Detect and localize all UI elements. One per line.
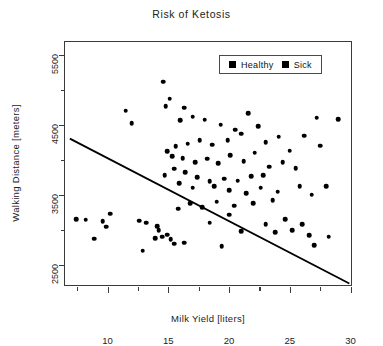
- data-point: [294, 166, 299, 171]
- y-axis-title-label: Walking Distance [meters]: [10, 104, 21, 222]
- data-point: [164, 104, 169, 109]
- data-point: [210, 143, 215, 148]
- data-point: [271, 198, 276, 203]
- data-point: [167, 96, 172, 101]
- data-point: [161, 80, 166, 85]
- data-point: [228, 153, 233, 158]
- y-axis-title: Walking Distance [meters]: [8, 0, 22, 336]
- x-axis-tick-label: 25: [285, 335, 296, 346]
- data-point: [173, 144, 178, 149]
- data-point: [219, 244, 224, 249]
- y-axis-minor-tick: [61, 90, 65, 91]
- legend-item-sick: Sick: [282, 60, 312, 70]
- data-point: [288, 148, 293, 153]
- data-point: [218, 122, 223, 127]
- data-point: [244, 191, 249, 196]
- data-point: [74, 217, 79, 222]
- data-point: [207, 220, 212, 225]
- chart-title: Risk of Ketosis: [0, 8, 383, 20]
- data-point: [156, 228, 161, 233]
- data-point: [137, 218, 142, 223]
- data-point: [162, 173, 167, 178]
- x-axis-minor-tick: [77, 287, 78, 291]
- data-point: [256, 124, 261, 129]
- x-axis-tick: [351, 287, 352, 293]
- data-point: [227, 188, 232, 193]
- data-point: [172, 166, 177, 171]
- x-axis-minor-tick: [138, 287, 139, 291]
- legend-square-icon-sick: [282, 61, 289, 68]
- data-point: [176, 206, 181, 211]
- x-axis-tick-label: 30: [345, 335, 356, 346]
- legend-label-healthy: Healthy: [241, 60, 274, 70]
- data-point: [267, 164, 272, 169]
- data-point: [182, 241, 187, 246]
- plot-area: [65, 42, 351, 285]
- data-point: [92, 236, 97, 241]
- data-point: [202, 117, 207, 122]
- data-point: [263, 140, 268, 145]
- data-point: [232, 204, 237, 209]
- data-point: [183, 170, 188, 175]
- data-point: [130, 121, 135, 126]
- x-axis-tick: [108, 287, 109, 293]
- plot-frame: 25003500450055001015202530: [64, 41, 352, 286]
- x-axis-tick-label: 20: [224, 335, 235, 346]
- data-point: [312, 243, 317, 248]
- data-point: [190, 185, 195, 190]
- data-point: [190, 115, 195, 120]
- data-point: [307, 233, 312, 238]
- legend-square-icon-healthy: [229, 61, 236, 68]
- data-point: [258, 185, 263, 190]
- chart-legend: Healthy Sick: [219, 55, 322, 74]
- data-point: [239, 229, 244, 234]
- data-point: [195, 175, 200, 180]
- x-axis-tick: [168, 287, 169, 293]
- data-point: [263, 222, 268, 227]
- data-point: [207, 179, 212, 184]
- data-point: [170, 154, 175, 159]
- data-point: [252, 150, 257, 155]
- data-point: [222, 176, 227, 181]
- data-point: [297, 184, 302, 189]
- data-point: [233, 127, 238, 132]
- data-point: [182, 106, 187, 111]
- data-point: [261, 173, 266, 178]
- y-axis-minor-tick: [61, 230, 65, 231]
- data-point: [283, 217, 288, 222]
- data-point: [336, 117, 341, 122]
- data-point: [249, 174, 254, 179]
- data-point: [100, 219, 105, 224]
- data-point: [178, 118, 183, 123]
- data-point: [241, 159, 246, 164]
- data-point: [215, 199, 220, 204]
- data-point: [165, 149, 170, 154]
- data-point: [212, 184, 217, 189]
- x-axis-minor-tick: [259, 287, 260, 291]
- data-point: [198, 138, 203, 143]
- data-point: [172, 241, 177, 246]
- data-point: [205, 157, 210, 162]
- x-axis-tick: [229, 287, 230, 293]
- data-point: [193, 160, 198, 165]
- x-axis-minor-tick: [320, 287, 321, 291]
- data-point: [83, 218, 88, 223]
- x-axis-minor-tick: [199, 287, 200, 291]
- data-point: [277, 134, 282, 139]
- y-axis-tick-label-text: 4500: [50, 124, 60, 144]
- data-point: [181, 156, 186, 161]
- y-axis-tick-label-text: 3500: [50, 194, 60, 214]
- data-point: [177, 181, 182, 186]
- data-point: [326, 234, 331, 239]
- legend-label-sick: Sick: [294, 60, 312, 70]
- data-point: [140, 248, 145, 253]
- data-point: [273, 230, 278, 235]
- data-point: [300, 222, 305, 227]
- data-point: [144, 220, 149, 225]
- data-point: [165, 232, 170, 237]
- data-point: [309, 192, 314, 197]
- y-axis-tick-label-text: 5500: [50, 54, 60, 74]
- data-point: [108, 211, 113, 216]
- x-axis-tick: [290, 287, 291, 293]
